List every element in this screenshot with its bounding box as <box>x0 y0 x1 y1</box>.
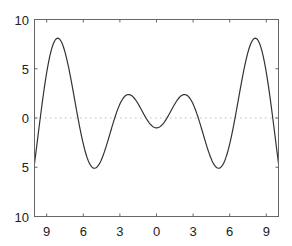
x-tick-label: 3 <box>189 224 196 239</box>
y-tick-label: 5 <box>22 62 29 77</box>
y-tick-label: 0 <box>22 111 29 126</box>
y-tick-label: 5 <box>22 160 29 175</box>
data-curve <box>35 38 279 168</box>
x-tick-label: 9 <box>263 224 270 239</box>
x-tick-label: 0 <box>153 224 160 239</box>
y-tick-label: 10 <box>15 210 29 225</box>
x-tick-label: 9 <box>43 224 50 239</box>
x-tick-label: 6 <box>226 224 233 239</box>
y-tick-label: 10 <box>15 13 29 28</box>
x-tick-label: 3 <box>116 224 123 239</box>
x-tick-label: 6 <box>80 224 87 239</box>
x-axis: 9630369 <box>43 20 270 239</box>
line-chart: 9630369 1050510 <box>0 0 292 246</box>
plot-area <box>35 38 279 168</box>
